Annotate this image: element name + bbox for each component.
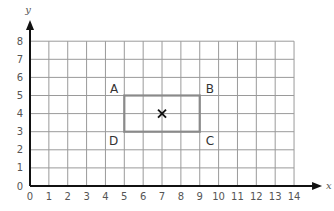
y-tick-label: 3 (17, 126, 23, 137)
y-tick-label: 4 (17, 108, 23, 119)
vertex-label-d: D (109, 134, 118, 148)
x-tick-label: 5 (121, 191, 127, 202)
vertex-label-b: B (206, 82, 214, 96)
y-tick-label: 1 (17, 162, 23, 173)
x-tick-label: 9 (197, 191, 203, 202)
x-tick-label: 13 (269, 191, 282, 202)
x-tick-label: 14 (288, 191, 301, 202)
x-tick-label: 2 (65, 191, 71, 202)
x-tick-label: 3 (83, 191, 89, 202)
y-tick-label: 0 (17, 181, 23, 192)
x-tick-label: 7 (159, 191, 165, 202)
x-tick-label: 0 (27, 191, 33, 202)
x-tick-label: 4 (102, 191, 108, 202)
y-tick-label: 6 (17, 72, 23, 83)
vertex-label-a: A (110, 82, 119, 96)
y-tick-label: 8 (17, 36, 23, 47)
y-axis-label: y (24, 4, 31, 15)
x-tick-label: 10 (212, 191, 225, 202)
vertex-label-c: C (206, 134, 214, 148)
x-tick-label: 8 (178, 191, 184, 202)
y-tick-label: 7 (17, 54, 23, 65)
x-tick-label: 12 (250, 191, 263, 202)
axes: xy (24, 4, 332, 191)
y-tick-label: 5 (17, 90, 23, 101)
x-tick-label: 6 (140, 191, 146, 202)
x-tick-label: 1 (46, 191, 52, 202)
x-axis-arrow-icon (312, 182, 322, 190)
y-tick-label: 2 (17, 144, 23, 155)
y-axis-arrow-icon (26, 20, 34, 30)
tick-labels: 01234567891011121314012345678 (17, 36, 301, 202)
x-axis-label: x (326, 180, 332, 191)
x-tick-label: 11 (231, 191, 244, 202)
coordinate-grid-diagram: xy 01234567891011121314012345678 ABCD (0, 0, 334, 211)
